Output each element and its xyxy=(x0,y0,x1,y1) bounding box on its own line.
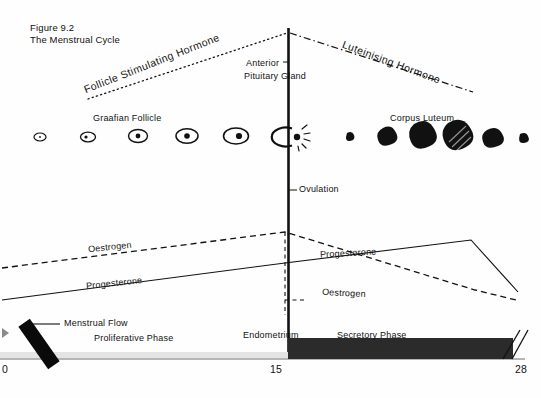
corpus-luteum-5 xyxy=(519,133,529,143)
corpus-luteum-3 xyxy=(443,120,474,151)
corpus-luteum-4 xyxy=(482,128,504,148)
corpus-luteum-label: Corpus Luteum xyxy=(390,113,454,124)
released-ovum xyxy=(294,134,300,140)
x-tick-label-28: 28 xyxy=(515,363,527,376)
endometrium-band-secretory xyxy=(288,338,513,359)
figure-number: Figure 9.2 xyxy=(30,22,74,34)
endometrium-label: Endometrium xyxy=(243,330,299,341)
graafian-follicle-series xyxy=(34,125,310,151)
menstrual-flow-label: Menstrual Flow xyxy=(64,318,128,329)
x-tick-label-15: 15 xyxy=(270,363,282,376)
corpus-luteum-2 xyxy=(409,121,437,149)
figure-title: The Menstrual Cycle xyxy=(30,34,120,46)
oestrogen-label-right: Oestrogen xyxy=(322,287,366,300)
corpus-luteum-0 xyxy=(346,132,355,141)
proliferative-phase-label: Proliferative Phase xyxy=(94,333,173,344)
anterior-pituitary-label-line1: Anterior xyxy=(246,58,279,69)
graafian-follicle-label: Graafian Follicle xyxy=(93,113,161,124)
menstrual-cycle-figure: Figure 9.2 The Menstrual Cycle Follicle … xyxy=(0,0,541,398)
secretory-phase-label: Secretory Phase xyxy=(337,330,407,341)
corpus-luteum-1 xyxy=(377,127,397,146)
progesterone-curve xyxy=(2,240,518,300)
ovulation-label: Ovulation xyxy=(299,184,339,195)
follicle-2 xyxy=(81,132,96,142)
anterior-pituitary-label-line2: Pituitary Gland xyxy=(244,71,306,82)
corpus-luteum-series xyxy=(346,120,529,151)
x-tick-label-0: 0 xyxy=(2,363,8,376)
